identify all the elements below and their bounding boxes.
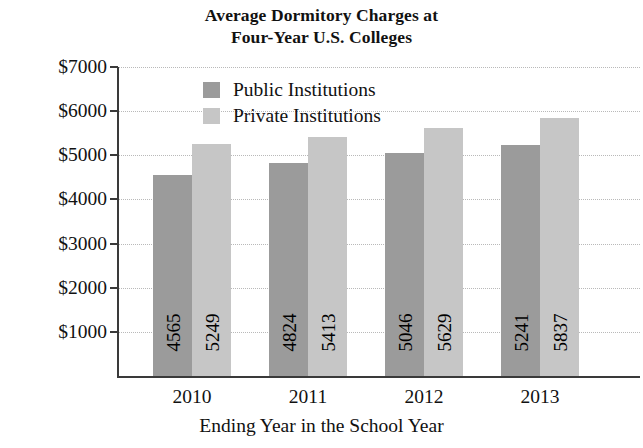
bar-value-label: 5413: [318, 314, 337, 352]
chart-title-line-2: Four-Year U.S. Colleges: [0, 26, 643, 48]
bar-private-2010: 5249: [192, 144, 231, 376]
gridline: [119, 67, 640, 68]
bar-public-2012: 5046: [385, 153, 424, 376]
y-axis-tick: [110, 110, 118, 112]
legend-label-private: Private Institutions: [233, 106, 381, 126]
bar-value-label: 5241: [511, 314, 530, 352]
y-axis-tick-label: $4000: [21, 189, 107, 209]
y-axis-tick-label: $7000: [21, 57, 107, 77]
bar-private-2012: 5629: [424, 128, 463, 376]
y-axis-tick: [110, 66, 118, 68]
bar-value-label: 5249: [202, 314, 221, 352]
y-axis-tick-label: $5000: [21, 145, 107, 165]
chart-legend: Public Institutions Private Institutions: [203, 78, 381, 130]
legend-item-private: Private Institutions: [203, 104, 381, 128]
bar-chart: Average Dormitory Charges at Four-Year U…: [0, 0, 643, 448]
y-axis-tick-label: $6000: [21, 101, 107, 121]
y-axis-tick-label: $3000: [21, 234, 107, 254]
bar-public-2010: 4565: [153, 175, 192, 377]
legend-swatch-public-icon: [203, 82, 220, 98]
bar-private-2011: 5413: [308, 137, 347, 376]
x-axis-line: [117, 376, 640, 378]
y-axis-tick: [110, 198, 118, 200]
legend-item-public: Public Institutions: [203, 78, 381, 102]
legend-label-public: Public Institutions: [233, 80, 375, 100]
bar-public-2011: 4824: [269, 163, 308, 376]
x-axis-label-2012: 2012: [364, 386, 484, 408]
x-axis-title: Ending Year in the School Year: [0, 415, 643, 437]
y-axis-tick-label: $2000: [21, 278, 107, 298]
bar-value-label: 4824: [279, 314, 298, 352]
y-axis-tick: [110, 331, 118, 333]
legend-swatch-private-icon: [203, 108, 220, 124]
chart-title-line-1: Average Dormitory Charges at: [0, 4, 643, 26]
y-axis-tick: [110, 243, 118, 245]
chart-title: Average Dormitory Charges at Four-Year U…: [0, 4, 643, 49]
bar-value-label: 4565: [163, 314, 182, 352]
x-axis-label-2010: 2010: [132, 386, 252, 408]
y-axis-tick: [110, 287, 118, 289]
y-axis-tick-label: $1000: [21, 322, 107, 342]
y-axis-tick: [110, 154, 118, 156]
x-axis-label-2013: 2013: [480, 386, 600, 408]
bar-value-label: 5046: [395, 314, 414, 352]
bar-value-label: 5837: [550, 314, 569, 352]
bar-value-label: 5629: [434, 314, 453, 352]
bar-private-2013: 5837: [540, 118, 579, 376]
bar-public-2013: 5241: [501, 145, 540, 376]
x-axis-label-2011: 2011: [248, 386, 368, 408]
